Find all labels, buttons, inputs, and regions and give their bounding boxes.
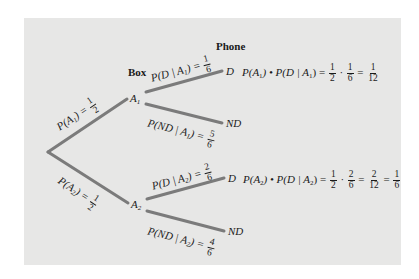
box-header: Box [128,67,146,78]
node-d1: D [226,66,234,77]
node-a2: A2 [131,199,141,212]
phone-header: Phone [216,41,245,52]
node-d2: D [228,173,236,184]
node-nd2: ND [228,226,243,237]
product-a2-d: P(A2) • P(D | A2) = 12 · 26 = 212 = 16 [243,170,401,190]
node-nd1: ND [226,118,241,129]
node-a1: A1 [130,93,140,106]
product-a1-d: P(A1) • P(D | A1) = 12 · 16 = 112 [242,63,380,83]
